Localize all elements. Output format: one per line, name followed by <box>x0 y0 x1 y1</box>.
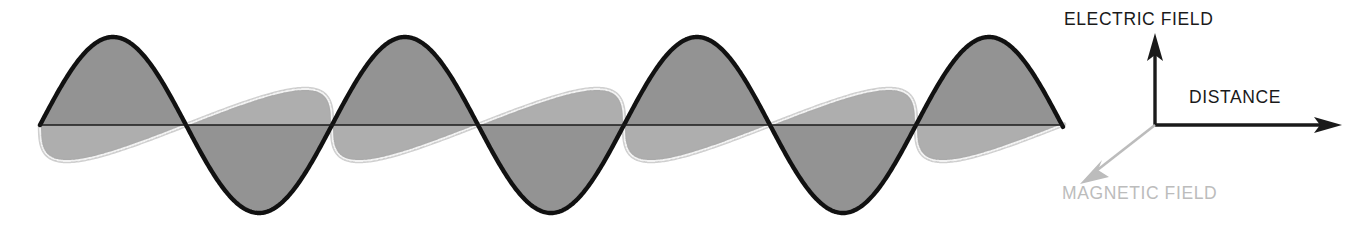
electric-field-axis-label: ELECTRIC FIELD <box>1064 9 1213 30</box>
magnetic-field-axis-line <box>1091 125 1155 175</box>
distance-axis-label: DISTANCE <box>1189 87 1281 108</box>
magnetic-field-axis-label: MAGNETIC FIELD <box>1062 183 1217 204</box>
electromagnetic-wave-diagram: ELECTRIC FIELD DISTANCE MAGNETIC FIELD <box>0 0 1361 230</box>
axis-triad <box>1080 33 1342 184</box>
